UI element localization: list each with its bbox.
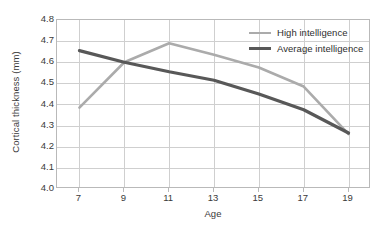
series-line: [79, 43, 348, 134]
y-axis-tick-label: 4.0: [28, 183, 54, 193]
y-axis-tick-label: 4.6: [28, 56, 54, 66]
y-axis-tick-label: 4.2: [28, 141, 54, 151]
y-axis-tick-label: 4.4: [28, 99, 54, 109]
legend-line-swatch-icon: [249, 32, 271, 34]
x-axis-tick-label: 13: [201, 192, 225, 203]
legend-entry-high-intelligence: High intelligence: [249, 26, 363, 39]
chart-legend: High intelligence Average intelligence: [249, 26, 363, 55]
y-axis-tick-label: 4.7: [28, 35, 54, 45]
y-axis-tick-label: 4.5: [28, 77, 54, 87]
legend-label: Average intelligence: [277, 43, 363, 54]
legend-entry-average-intelligence: Average intelligence: [249, 42, 363, 55]
x-axis-tick-label: 15: [246, 192, 270, 203]
legend-label: High intelligence: [277, 27, 348, 38]
x-axis-tick-label: 19: [336, 192, 360, 203]
x-axis-title: Age: [56, 208, 370, 219]
x-axis-tick-label: 7: [66, 192, 90, 203]
x-axis-tick-label: 9: [111, 192, 135, 203]
y-axis-tick-label: 4.3: [28, 120, 54, 130]
y-axis-tick-label: 4.8: [28, 14, 54, 24]
x-axis-tick-label: 11: [156, 192, 180, 203]
line-chart: Cortical thickness (mm) 4.84.74.64.54.44…: [0, 0, 386, 234]
y-axis-tick-label: 4.1: [28, 162, 54, 172]
legend-line-swatch-icon: [249, 47, 271, 50]
x-axis-tick-label: 17: [291, 192, 315, 203]
y-axis-title: Cortical thickness (mm): [8, 7, 24, 197]
